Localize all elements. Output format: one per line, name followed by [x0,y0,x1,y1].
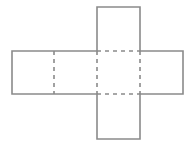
net-outline [12,7,183,139]
cube-net-diagram [0,0,196,147]
